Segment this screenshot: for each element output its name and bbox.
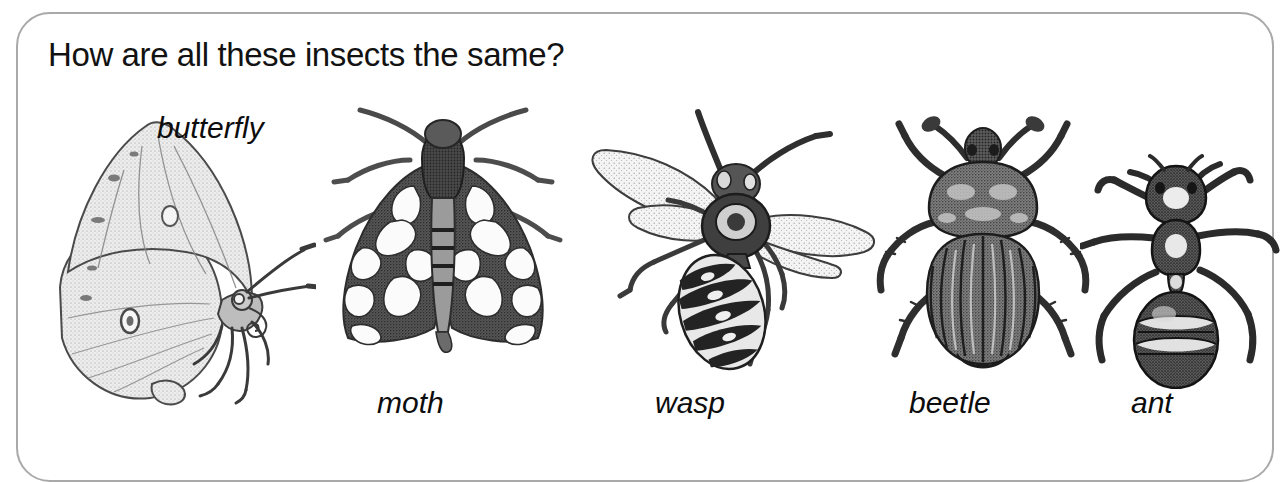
insect-label-beetle: beetle: [909, 386, 991, 420]
insect-label-ant: ant: [1131, 386, 1173, 420]
worksheet-card: How are all these insects the same?: [16, 12, 1274, 482]
ant-illustration: [1080, 154, 1280, 389]
butterfly-illustration: [46, 102, 316, 407]
wasp-illustration: [588, 102, 878, 382]
insect-label-moth: moth: [377, 386, 444, 420]
insect-label-butterfly: butterfly: [157, 111, 264, 145]
insect-label-wasp: wasp: [655, 386, 725, 420]
moth-illustration: [318, 102, 568, 377]
page-title: How are all these insects the same?: [48, 36, 564, 74]
beetle-illustration: [873, 114, 1093, 384]
